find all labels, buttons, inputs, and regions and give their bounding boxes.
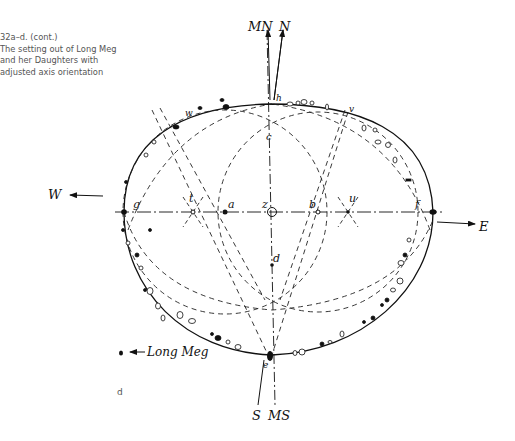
label-h: h: [276, 93, 282, 103]
east-arrow: [437, 222, 475, 224]
label-b: b: [309, 198, 316, 211]
key-points: [121, 208, 436, 362]
label-e: e: [263, 360, 268, 370]
label-magnetic-south: MS: [267, 408, 290, 423]
stone-circle-diagram: MN N W E S MS g t a z b u f c d e h w v …: [0, 0, 515, 441]
circle-outline: [124, 104, 433, 355]
construction-arcs: [123, 104, 433, 355]
label-d: d: [273, 252, 280, 265]
magnetic-axis: [267, 30, 275, 405]
label-g: g: [133, 198, 140, 211]
label-long-meg: Long Meg: [146, 345, 209, 359]
long-meg-stone: [119, 351, 123, 356]
label-true-south: S: [252, 408, 261, 423]
label-west: W: [48, 187, 63, 202]
label-true-north: N: [278, 19, 291, 34]
label-a: a: [228, 198, 235, 211]
label-z: z: [261, 198, 268, 211]
label-f: f: [414, 198, 421, 211]
label-east: E: [478, 219, 489, 234]
west-arrow: [70, 195, 103, 196]
label-c: c: [266, 131, 272, 142]
label-t: t: [189, 192, 194, 205]
label-u: u: [349, 192, 356, 205]
label-w: w: [185, 108, 193, 118]
label-magnetic-north: MN: [247, 19, 273, 34]
label-v: v: [349, 104, 354, 114]
